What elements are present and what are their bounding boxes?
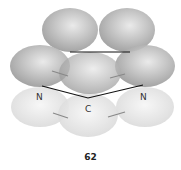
- orbital-diagram: [0, 0, 181, 170]
- atom-label-n-right: N: [140, 92, 147, 102]
- figure-caption: 62: [0, 152, 181, 162]
- atom-label-n-left: N: [36, 92, 43, 102]
- atom-label-c: C: [85, 104, 91, 114]
- lobe-bottom-center: [58, 93, 118, 137]
- lobe-top-left: [42, 8, 98, 52]
- lobe-mid-center: [59, 52, 121, 94]
- lobe-mid-right: [115, 45, 175, 87]
